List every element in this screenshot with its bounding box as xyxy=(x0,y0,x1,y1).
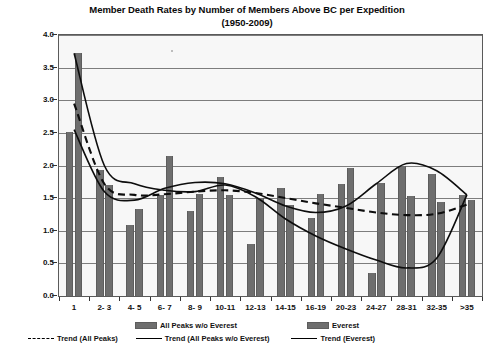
x-axis-tick-mark xyxy=(482,297,483,301)
y-axis-tick-mark xyxy=(52,295,57,296)
bar xyxy=(277,188,285,296)
bar xyxy=(166,156,174,296)
bar xyxy=(75,53,83,296)
x-axis-tick-label: 16-19 xyxy=(306,303,326,312)
plot-inner xyxy=(59,35,482,296)
y-axis-tick-mark xyxy=(52,197,57,198)
y-axis-tick-label: 1.5 xyxy=(4,193,54,202)
gridline xyxy=(59,198,482,199)
legend-label: Trend (All Peaks w/o Everest) xyxy=(165,334,270,343)
bar xyxy=(437,202,445,296)
bar xyxy=(96,170,104,296)
x-axis-tick-label: 8- 9 xyxy=(188,303,202,312)
bar xyxy=(196,194,204,296)
bar xyxy=(126,225,134,296)
x-axis-tick-mark xyxy=(119,297,120,301)
bar xyxy=(338,184,346,296)
bar xyxy=(428,174,436,296)
y-axis-tick-label: 0.0 xyxy=(4,291,54,300)
legend-item-all-peaks-wo-everest[interactable]: All Peaks w/o Everest xyxy=(135,321,237,330)
bar xyxy=(157,195,165,296)
y-axis-tick-mark xyxy=(52,34,57,35)
x-axis-tick-label: 28-31 xyxy=(396,303,416,312)
x-axis-tick-label: 32-35 xyxy=(426,303,446,312)
x-axis-tick-label: >35 xyxy=(460,303,474,312)
y-axis-tick-mark xyxy=(52,262,57,263)
y-axis-tick-mark xyxy=(52,165,57,166)
x-axis-tick-label: 12-13 xyxy=(245,303,265,312)
y-axis-tick-label: 0.5 xyxy=(4,258,54,267)
bar xyxy=(66,132,74,296)
bar xyxy=(308,218,316,296)
chart-title-block: Member Death Rates by Number of Members … xyxy=(0,3,494,29)
x-axis-tick-label: 2- 3 xyxy=(97,303,111,312)
bar xyxy=(407,196,415,296)
y-axis-tick-label: 4.0 xyxy=(4,30,54,39)
plot-area xyxy=(58,34,483,297)
bar xyxy=(187,211,195,296)
legend-swatch-icon xyxy=(135,322,157,329)
bar xyxy=(317,194,325,296)
chart-container: Member Death Rates by Number of Members … xyxy=(0,0,494,353)
legend-item-trend-everest[interactable]: Trend (Everest) xyxy=(291,334,375,343)
chart-legend: All Peaks w/o Everest Everest Trend (All… xyxy=(0,318,494,350)
chart-subtitle: (1950-2009) xyxy=(0,16,494,29)
x-axis-tick-label: 4- 5 xyxy=(128,303,142,312)
y-axis-tick-label: 2.0 xyxy=(4,161,54,170)
x-axis-tick-mark xyxy=(301,297,302,301)
x-axis-tick-mark xyxy=(210,297,211,301)
bar xyxy=(247,244,255,296)
x-axis-tick-mark xyxy=(240,297,241,301)
bar xyxy=(226,195,234,296)
x-axis-tick-mark xyxy=(391,297,392,301)
dashed-line-icon xyxy=(28,338,54,339)
solid-line-icon xyxy=(291,338,317,339)
x-axis-tick-mark xyxy=(422,297,423,301)
gridline xyxy=(59,100,482,101)
x-axis-tick-mark xyxy=(271,297,272,301)
legend-label: Everest xyxy=(332,321,359,330)
legend-label: Trend (Everest) xyxy=(320,334,375,343)
x-axis-tick-mark xyxy=(59,297,60,301)
gridline xyxy=(59,68,482,69)
bar xyxy=(459,195,467,296)
gridline xyxy=(59,166,482,167)
legend-item-trend-all-peaks[interactable]: Trend (All Peaks) xyxy=(28,334,118,343)
x-axis-tick-mark xyxy=(452,297,453,301)
x-axis: 12- 34- 56- 78- 910-1112-1314-1516-1920-… xyxy=(58,297,483,319)
x-axis-tick-mark xyxy=(331,297,332,301)
legend-row-trends: Trend (All Peaks) Trend (All Peaks w/o E… xyxy=(0,332,494,344)
legend-item-trend-all-peaks-wo-everest[interactable]: Trend (All Peaks w/o Everest) xyxy=(136,334,270,343)
bar xyxy=(217,177,225,296)
y-axis-tick-mark xyxy=(52,99,57,100)
y-axis-tick-mark xyxy=(52,230,57,231)
legend-row-bars: All Peaks w/o Everest Everest xyxy=(0,319,494,331)
bar xyxy=(347,168,355,296)
gridline xyxy=(59,263,482,264)
legend-item-everest[interactable]: Everest xyxy=(307,321,359,330)
x-axis-tick-label: 20-23 xyxy=(336,303,356,312)
x-axis-tick-mark xyxy=(150,297,151,301)
x-axis-tick-label: 10-11 xyxy=(215,303,235,312)
gridline xyxy=(59,35,482,36)
artifact-speck xyxy=(171,50,173,52)
y-axis-tick-label: 1.0 xyxy=(4,226,54,235)
bar xyxy=(256,198,264,296)
page-title: Member Death Rates by Number of Members … xyxy=(0,3,494,16)
x-axis-tick-label: 24-27 xyxy=(366,303,386,312)
legend-swatch-icon xyxy=(307,322,329,329)
x-axis-tick-mark xyxy=(89,297,90,301)
x-axis-tick-label: 14-15 xyxy=(275,303,295,312)
legend-label: Trend (All Peaks) xyxy=(57,334,118,343)
bar xyxy=(105,185,113,296)
bar xyxy=(368,273,376,296)
gridline xyxy=(59,231,482,232)
gridline xyxy=(59,133,482,134)
solid-line-icon xyxy=(136,338,162,339)
bar xyxy=(377,183,385,296)
y-axis-tick-mark xyxy=(52,67,57,68)
bar xyxy=(286,205,294,296)
x-axis-tick-label: 6- 7 xyxy=(158,303,172,312)
bar xyxy=(468,200,476,296)
bar xyxy=(135,209,143,296)
